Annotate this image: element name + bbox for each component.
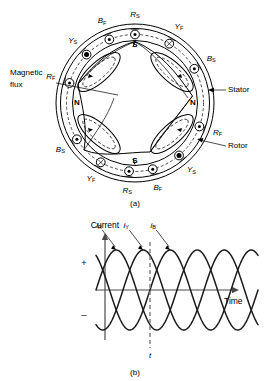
sign-positive: + [81, 258, 86, 268]
stator-label: Stator [228, 85, 250, 94]
pole-label-layer: SNSN [74, 40, 196, 165]
dot-circle-icon [125, 167, 134, 176]
slot-b-f-upper-l: BF [98, 17, 114, 44]
curve-label-iy: iY [123, 221, 143, 250]
y-axis [102, 233, 108, 340]
slot-b-f-lower-r-label-sub: F [159, 187, 163, 193]
dot-circle-icon [131, 30, 140, 39]
slot-b-f-upper-l-label: BF [98, 17, 107, 27]
svg-text:iB: iB [150, 221, 156, 231]
slot-y-s-lower-r: YS [175, 151, 197, 175]
slot-b-s-right-u-label: BS [207, 54, 216, 64]
pole-right: N [190, 98, 196, 107]
slot-r-s-top-label: RS [130, 10, 140, 20]
dot-circle-icon [105, 35, 114, 44]
svg-text:iY: iY [123, 221, 129, 231]
slot-b-f-lower-r-label: BF [153, 183, 162, 193]
slot-b-s-left-l-label: BS [56, 145, 65, 155]
pole-left: N [74, 98, 80, 107]
caption-b: (b) [130, 368, 140, 377]
slot-y-f-upper-r-label: YF [175, 22, 184, 32]
dot-circle-icon [195, 122, 204, 131]
pole-top: S [132, 40, 138, 49]
dot-circle-icon [190, 64, 199, 73]
rotor-label: Rotor [228, 141, 248, 150]
slot-y-s-left-u-label-sub: S [74, 39, 78, 45]
slot-r-s-top-label-sub: S [136, 14, 140, 20]
slot-r-f-left: RF [46, 72, 74, 87]
callout-stator: Stator [208, 85, 250, 94]
slot-r-f-left-label-sub: F [52, 76, 56, 82]
dot-circle-icon [73, 135, 82, 144]
slot-b-s-right-u-label-sub: S [212, 58, 216, 64]
figure-root: RSYFBSRFYSBFRSYFBSRFYSBF SNSN Magnetic f… [0, 0, 270, 381]
pole-bottom: S [132, 156, 138, 165]
time-instant-label: t [149, 351, 152, 360]
slot-b-f-lower-r: BF [148, 165, 162, 193]
curve-label-ib: iB [150, 221, 170, 250]
cross-circle-icon [165, 39, 174, 48]
slot-r-s-bottom-label-sub: S [128, 189, 132, 195]
slot-y-s-lower-r-label: YS [187, 166, 196, 176]
slot-r-f-right-label: RF [213, 128, 223, 138]
slot-r-s-bottom-label: RS [123, 186, 133, 196]
panel-a-machine-diagram: RSYFBSRFYSBFRSYFBSRFYSBF SNSN Magnetic f… [0, 0, 270, 212]
slot-y-f-lower-l-label-sub: F [92, 178, 96, 184]
magnetic-flux-label-line2: flux [10, 80, 22, 89]
slot-y-s-left-u-label: YS [68, 36, 77, 46]
slot-b-f-upper-l-label-sub: F [103, 20, 107, 26]
flux-loops [72, 47, 199, 160]
rotor-body [78, 42, 193, 155]
slot-b-s-left-l-label-sub: S [61, 148, 65, 154]
sign-negative: – [81, 310, 86, 320]
solid-dot-icon [175, 151, 184, 160]
dot-circle-icon [148, 165, 157, 174]
slot-r-f-right-label-sub: F [219, 132, 223, 138]
slot-y-s-lower-r-label-sub: S [192, 169, 196, 175]
panel-b-waveform-chart: Current Time + – t iRiYiB (b) [0, 212, 270, 381]
slot-y-f-upper-r-label-sub: F [180, 25, 184, 31]
magnetic-flux-label-line1: Magnetic [10, 68, 42, 77]
slot-y-f-lower-l-label: YF [87, 174, 96, 184]
y-axis-label: Current [91, 220, 120, 230]
slot-r-f-left-label: RF [46, 72, 56, 82]
pole-boundary-lines [133, 42, 135, 165]
solid-dot-icon [82, 50, 91, 59]
cross-circle-icon [96, 158, 105, 167]
caption-a: (a) [130, 199, 140, 208]
